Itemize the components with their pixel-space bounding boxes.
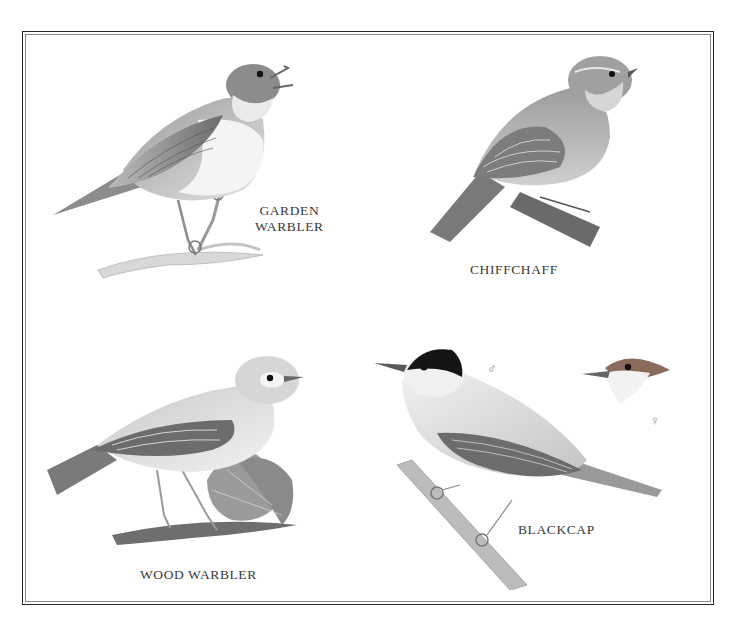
wood-warbler-label: WOOD WARBLER (140, 567, 257, 583)
female-symbol-icon: ♀ (650, 414, 660, 427)
male-symbol-icon: ♂ (487, 362, 497, 375)
blackcap-female-illustration (580, 348, 675, 408)
garden-warbler-illustration (48, 60, 298, 285)
garden-warbler-label-line-1: GARDEN (255, 203, 324, 219)
chiffchaff-label: CHIFFCHAFF (470, 262, 558, 278)
blackcap-label-line-1: BLACKCAP (518, 522, 595, 538)
garden-warbler-label-line-2: WARBLER (255, 219, 324, 235)
blackcap-label: BLACKCAP (518, 522, 595, 538)
wood-warbler-illustration (42, 350, 322, 550)
chiffchaff-illustration (425, 52, 645, 252)
wood-warbler-label-line-1: WOOD WARBLER (140, 567, 257, 583)
chiffchaff-label-line-1: CHIFFCHAFF (470, 262, 558, 278)
garden-warbler-label: GARDEN WARBLER (255, 203, 324, 235)
